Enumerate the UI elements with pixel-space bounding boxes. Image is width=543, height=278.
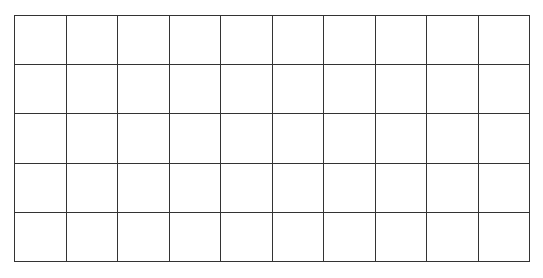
grid-cell (479, 65, 531, 114)
grid-cell (15, 16, 67, 65)
grid-cell (221, 16, 273, 65)
grid-cell (427, 213, 479, 262)
grid-cell (273, 65, 325, 114)
grid-cell (427, 164, 479, 213)
grid-cell (221, 65, 273, 114)
grid-cell (67, 16, 119, 65)
grid-cell (67, 114, 119, 163)
grid-cell (15, 213, 67, 262)
grid-cell (479, 16, 531, 65)
grid-cell (118, 213, 170, 262)
grid-cell (170, 164, 222, 213)
grid-cell (324, 65, 376, 114)
grid-cell (170, 114, 222, 163)
grid-cell (170, 65, 222, 114)
grid-cell (221, 213, 273, 262)
grid-cell (170, 16, 222, 65)
grid-cell (324, 164, 376, 213)
grid-cell (376, 213, 428, 262)
grid-cell (118, 16, 170, 65)
grid-cell (118, 164, 170, 213)
grid-cell (324, 213, 376, 262)
grid-cell (15, 164, 67, 213)
grid-cell (427, 114, 479, 163)
grid-cell (67, 213, 119, 262)
grid-cell (118, 65, 170, 114)
grid-cell (376, 114, 428, 163)
grid-cell (118, 114, 170, 163)
grid-cell (427, 65, 479, 114)
grid-cell (273, 164, 325, 213)
grid-cell (221, 164, 273, 213)
grid-cell (273, 213, 325, 262)
grid-cell (221, 114, 273, 163)
grid-cell (479, 114, 531, 163)
grid-cell (479, 164, 531, 213)
grid-cell (376, 16, 428, 65)
grid-cell (170, 213, 222, 262)
grid-cell (67, 164, 119, 213)
empty-grid (14, 15, 530, 262)
grid-cell (427, 16, 479, 65)
grid-cell (273, 114, 325, 163)
grid-cell (15, 114, 67, 163)
grid-cell (376, 65, 428, 114)
grid-cell (376, 164, 428, 213)
grid-cell (324, 16, 376, 65)
grid-cell (479, 213, 531, 262)
grid-cell (273, 16, 325, 65)
grid-cell (324, 114, 376, 163)
grid-cell (15, 65, 67, 114)
grid-cell (67, 65, 119, 114)
